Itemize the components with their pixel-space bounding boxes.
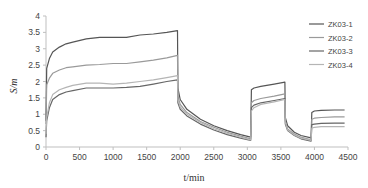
series-line-zk03-2 — [46, 55, 345, 140]
x-tick-label: 4500 — [339, 152, 358, 162]
y-tick-label: 0.5 — [28, 126, 40, 136]
series-line-zk03-1 — [46, 31, 345, 138]
x-tick-label: 2000 — [171, 152, 190, 162]
legend-item: ZK03-3 — [309, 47, 353, 56]
x-tick-label: 2500 — [204, 152, 223, 162]
series-lines — [46, 31, 345, 141]
y-tick-label: 2.5 — [28, 60, 40, 70]
legend-label: ZK03-4 — [328, 61, 353, 70]
legend-item: ZK03-4 — [309, 61, 353, 70]
y-tick-label: 4 — [35, 11, 40, 21]
y-tick-label: 3.5 — [28, 27, 40, 37]
legend-item: ZK03-2 — [309, 34, 353, 43]
x-tick-label: 500 — [72, 152, 86, 162]
y-tick-label: 1 — [35, 109, 40, 119]
x-tick-label: 4000 — [305, 152, 324, 162]
y-tick-label: 1.5 — [28, 93, 40, 103]
y-axis: 00.511.522.533.54 — [28, 11, 46, 152]
x-axis-title: t/min — [183, 172, 204, 183]
legend: ZK03-1ZK03-2ZK03-3ZK03-4 — [309, 20, 353, 70]
legend-item: ZK03-1 — [309, 20, 353, 29]
series-line-zk03-3 — [46, 80, 345, 141]
series-line-zk03-4 — [46, 76, 345, 141]
x-axis: 050010001500200025003000350040004500 — [44, 147, 358, 162]
line-chart: 00.511.522.533.54 0500100015002000250030… — [0, 0, 368, 188]
x-tick-label: 3000 — [238, 152, 257, 162]
y-axis-title: S/m — [8, 79, 19, 94]
x-tick-label: 3500 — [271, 152, 290, 162]
y-tick-label: 2 — [35, 77, 40, 87]
x-tick-label: 1500 — [137, 152, 156, 162]
x-tick-label: 1000 — [104, 152, 123, 162]
y-tick-label: 3 — [35, 44, 40, 54]
legend-label: ZK03-1 — [328, 20, 353, 29]
y-tick-label: 0 — [35, 142, 40, 152]
x-tick-label: 0 — [44, 152, 49, 162]
legend-label: ZK03-2 — [328, 34, 353, 43]
legend-label: ZK03-3 — [328, 47, 353, 56]
